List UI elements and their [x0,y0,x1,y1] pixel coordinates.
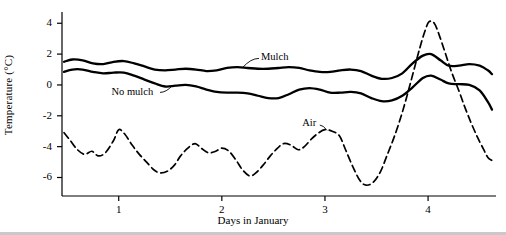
temperature-chart: Temperature (°C) Days in January 420-2-4… [0,0,506,235]
bottom-rule [0,232,506,235]
x-tick-2: 2 [212,203,232,215]
y-tick--6: -6 [28,170,52,182]
y-tick-4: 4 [28,16,52,28]
series-label-no-mulch: No mulch [111,86,153,97]
y-tick-0: 0 [28,78,52,90]
x-tick-3: 3 [315,203,335,215]
x-tick-4: 4 [418,203,438,215]
y-tick-2: 2 [28,47,52,59]
plot-area [0,0,506,235]
series-line-air [64,21,492,185]
x-tick-1: 1 [109,203,129,215]
series-label-air: Air [302,117,316,128]
y-tick--4: -4 [28,140,52,152]
series-label-mulch: Mulch [261,51,288,62]
y-tick--2: -2 [28,109,52,121]
